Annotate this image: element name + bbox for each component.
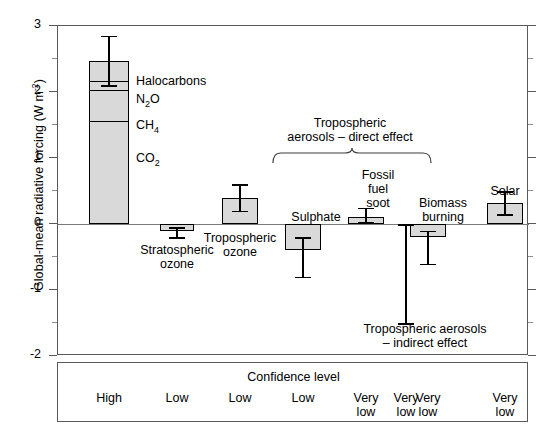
confidence-level-line1: High xyxy=(96,391,122,405)
bar-label-solar: Solar xyxy=(490,184,519,198)
confidence-level-line1: Low xyxy=(229,391,252,405)
bar-tropospheric-aerosols-indirect-error-line xyxy=(405,224,407,323)
confidence-level-line1: Low xyxy=(166,391,189,405)
bar-label-tropospheric-ozone-line1: Tropospheric xyxy=(204,231,277,245)
confidence-level-line1: Very xyxy=(415,391,440,405)
bar-label-halocarbons: Halocarbons xyxy=(136,74,206,88)
y-tick-label: 0 xyxy=(19,216,41,228)
confidence-level-line2: low xyxy=(492,405,517,419)
bar-label-fossil-fuel-soot-line2: fuel xyxy=(368,182,388,196)
bar-sulphate-error-line xyxy=(302,237,304,277)
y-tick-major xyxy=(49,289,57,290)
y-tick-label: -1 xyxy=(19,282,41,294)
y-tick-minor-right xyxy=(528,256,533,257)
plot-area: Halocarbons N2O CH4 CO2 Stratospheric oz… xyxy=(57,25,528,355)
confidence-level-tropospheric-ozone: Low xyxy=(229,391,252,405)
y-tick-minor-right xyxy=(528,322,533,323)
bar-label-biomass-burning-line1: Biomass xyxy=(419,196,467,210)
confidence-level-line1: Low xyxy=(292,391,315,405)
bar-biomass-burning-error-cap-upper xyxy=(420,231,436,233)
bar-greenhouse-gases-error-line xyxy=(108,36,110,86)
bar-biomass-burning-error-cap-lower xyxy=(420,264,436,266)
indirect-effect-label-line1: Tropospheric aerosols xyxy=(363,322,486,336)
confidence-level-title: Confidence level xyxy=(58,370,529,384)
bar-label-co2: CO2 xyxy=(136,151,160,170)
y-tick-major xyxy=(49,223,57,224)
bar-segment-ch4[interactable] xyxy=(89,90,129,121)
y-tick-major-right xyxy=(528,157,536,158)
y-tick-major xyxy=(49,157,57,158)
y-tick-major-right xyxy=(528,223,536,224)
y-tick-label: 2 xyxy=(19,84,41,96)
y-tick-minor-right xyxy=(528,124,533,125)
bar-sulphate-error-cap-upper xyxy=(295,237,311,239)
bar-tropospheric-ozone-error-cap-lower xyxy=(232,211,248,213)
bar-tropospheric-ozone-error-cap-upper xyxy=(232,184,248,186)
bar-label-stratospheric-ozone-line1: Stratospheric xyxy=(140,243,214,257)
bar-biomass-burning-error-line xyxy=(427,231,429,264)
y-tick-major xyxy=(49,25,57,26)
bar-solar-error-cap-lower xyxy=(497,214,513,216)
bar-label-stratospheric-ozone-line2: ozone xyxy=(160,257,194,271)
confidence-level-line1: Very xyxy=(393,391,418,405)
confidence-level-line2: low xyxy=(353,405,378,419)
y-tick-label: 3 xyxy=(19,18,41,30)
bar-segment-co2[interactable] xyxy=(89,121,129,224)
confidence-level-line2: low xyxy=(393,405,418,419)
radiative-forcing-figure: Global-mean radiative forcing (W m-2) 32… xyxy=(0,0,553,446)
bar-stratospheric-ozone-error-cap-lower xyxy=(169,237,185,239)
y-tick-minor-right xyxy=(528,190,533,191)
bar-greenhouse-gases-error-cap-upper xyxy=(101,36,117,38)
bar-fossil-fuel-soot-error-cap-lower xyxy=(358,222,374,224)
confidence-level-solar: Verylow xyxy=(492,391,517,419)
bar-label-tropospheric-ozone-line2: ozone xyxy=(223,245,257,259)
confidence-level-biomass-burning: Verylow xyxy=(415,391,440,419)
tropospheric-aerosols-brace xyxy=(271,148,433,164)
bar-label-ch4: CH4 xyxy=(136,118,159,137)
bar-label-fossil-fuel-soot-line3: soot xyxy=(366,196,390,210)
y-tick-minor-right xyxy=(528,58,533,59)
confidence-level-tropospheric-aerosols-indirect: Verylow xyxy=(393,391,418,419)
bar-label-biomass-burning-line2: burning xyxy=(422,210,464,224)
bar-greenhouse-gases-error-cap-lower xyxy=(101,85,117,87)
bar-sulphate-error-cap-lower xyxy=(295,277,311,279)
bar-label-n2o: N2O xyxy=(136,92,160,111)
y-tick-label: 1 xyxy=(19,150,41,162)
indirect-effect-label-line2: – indirect effect xyxy=(383,336,468,350)
confidence-level-line1: Very xyxy=(492,391,517,405)
bar-label-sulphate: Sulphate xyxy=(291,210,340,224)
confidence-level-line1: Very xyxy=(353,391,378,405)
confidence-level-box: Confidence level HighLowLowLowVerylowVer… xyxy=(57,362,528,422)
confidence-level-stratospheric-ozone: Low xyxy=(166,391,189,405)
bar-label-fossil-fuel-soot-line1: Fossil xyxy=(362,168,395,182)
confidence-level-greenhouse-gases: High xyxy=(96,391,122,405)
bar-tropospheric-aerosols-indirect-error-cap-upper xyxy=(398,224,414,226)
bar-stratospheric-ozone-error-cap-upper xyxy=(169,227,185,229)
y-tick-label: -2 xyxy=(19,348,41,360)
confidence-level-fossil-fuel-soot: Verylow xyxy=(353,391,378,419)
y-tick-major-right xyxy=(528,91,536,92)
brace-label-line2: aerosols – direct effect xyxy=(287,130,413,144)
y-tick-major xyxy=(49,355,57,356)
confidence-level-line2: low xyxy=(415,405,440,419)
brace-label-line1: Tropospheric xyxy=(314,116,387,130)
confidence-level-sulphate: Low xyxy=(292,391,315,405)
y-tick-major-right xyxy=(528,355,536,356)
y-tick-major-right xyxy=(528,25,536,26)
y-tick-major-right xyxy=(528,289,536,290)
y-tick-major xyxy=(49,91,57,92)
bar-tropospheric-ozone-error-line xyxy=(239,184,241,210)
